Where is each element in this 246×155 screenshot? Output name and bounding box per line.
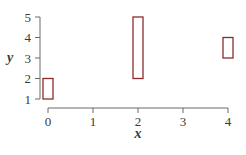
chart: 12345 01234 x y: [0, 0, 246, 155]
y-tick-label: 1: [25, 92, 32, 107]
x-tick-label: 3: [180, 114, 187, 129]
y-tick-label: 5: [25, 10, 32, 25]
range-bar: [133, 17, 143, 79]
x-axis-label: x: [134, 126, 142, 141]
y-tick-label: 2: [25, 71, 32, 86]
x-tick-label: 0: [45, 114, 52, 129]
y-tick-label: 4: [25, 30, 32, 45]
y-axis-label: y: [5, 50, 14, 65]
y-axis: 12345: [25, 10, 41, 107]
x-tick-label: 4: [225, 114, 232, 129]
bars: [43, 17, 233, 99]
x-tick-label: 1: [90, 114, 97, 129]
range-bar: [43, 79, 53, 100]
range-bar: [223, 38, 233, 59]
y-tick-label: 3: [25, 51, 32, 66]
